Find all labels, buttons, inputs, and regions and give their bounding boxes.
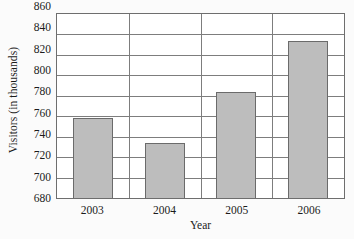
y-tick-label: 800 — [34, 65, 51, 77]
plot-area — [56, 13, 345, 199]
bar — [216, 92, 256, 198]
y-tick-label: 780 — [34, 87, 51, 99]
bar-chart-figure: Visitors (in thousands) 6807007207407607… — [0, 0, 354, 239]
y-tick-label: 700 — [34, 172, 51, 184]
x-axis-title: Year — [56, 219, 345, 231]
y-axis-title-text: Visitors (in thousands) — [7, 47, 19, 153]
x-tick-label: 2004 — [128, 201, 200, 219]
y-axis-title: Visitors (in thousands) — [0, 0, 26, 200]
y-tick-label: 680 — [34, 193, 51, 205]
y-tick-label: 760 — [34, 108, 51, 120]
y-tick-label: 820 — [34, 44, 51, 56]
bar-cell — [129, 14, 201, 198]
y-tick-label: 720 — [34, 151, 51, 163]
bar — [145, 143, 185, 198]
y-tick-label: 740 — [34, 129, 51, 141]
y-tick-label: 840 — [34, 23, 51, 35]
x-axis-tick-labels: 2003200420052006 — [56, 201, 345, 219]
y-tick-label: 860 — [34, 1, 51, 13]
bar — [288, 41, 328, 198]
bar-cell — [201, 14, 273, 198]
x-tick-label: 2006 — [273, 201, 345, 219]
bar — [73, 118, 113, 198]
x-tick-label: 2003 — [56, 201, 128, 219]
plot-inner — [57, 14, 344, 198]
bars-layer — [57, 14, 344, 198]
y-axis-tick-labels: 680700720740760780800820840860 — [26, 7, 54, 199]
bar-cell — [57, 14, 129, 198]
x-tick-label: 2005 — [201, 201, 273, 219]
bar-cell — [272, 14, 344, 198]
